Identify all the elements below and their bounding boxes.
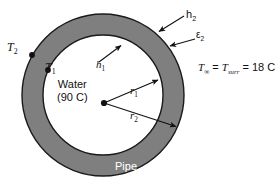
label-T1: T1	[45, 61, 56, 76]
label-T2: T2	[7, 41, 18, 56]
label-r2-subscript: 2	[134, 116, 138, 124]
label-pipe: Pipe	[115, 161, 137, 172]
label-h2-subscript: 2	[192, 14, 196, 23]
pipe-cross-section-drawing	[0, 0, 277, 191]
label-h1: h1	[96, 59, 105, 73]
label-T2-subscript: 2	[14, 47, 18, 56]
label-r1-subscript: 1	[134, 91, 138, 99]
label-surr-T-subscript: surr	[228, 68, 239, 75]
label-ambient-value: = 18 C	[239, 61, 275, 73]
label-water-line2: (90 C)	[57, 92, 88, 103]
label-ambient-equals-1: =	[209, 61, 222, 73]
label-r1: r1	[130, 85, 138, 99]
label-ambient-temperature: T∞ = Tsurr = 18 C	[198, 62, 275, 76]
h2-leader-line	[159, 16, 184, 32]
label-r2: r2	[130, 110, 138, 124]
label-water: Water (90 C)	[57, 79, 88, 103]
label-water-line1: Water	[57, 79, 88, 90]
label-T1-subscript: 1	[52, 67, 56, 76]
label-T2-base: T	[7, 40, 14, 54]
label-h2: h2	[186, 9, 196, 22]
label-T1-base: T	[45, 60, 52, 74]
label-emissivity-2: ε2	[196, 30, 204, 43]
label-h1-subscript: 1	[102, 65, 106, 73]
outer-wall-temperature-point	[29, 52, 35, 58]
pipe-center-point	[101, 100, 107, 106]
eps2-leader-line	[170, 39, 195, 46]
label-emissivity-subscript: 2	[200, 35, 204, 42]
diagram-canvas: T2 T1 h1 h2 ε2 T∞ = Tsurr = 18 C Water (…	[0, 0, 277, 191]
